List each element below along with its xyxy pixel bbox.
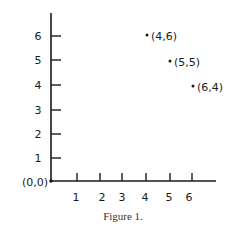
point-label: (4,6) (151, 30, 177, 43)
origin-label: (0,0) (22, 176, 48, 189)
x-tick-label: 1 (73, 191, 80, 204)
y-tick-label: 5 (35, 54, 42, 67)
y-tick-label: 4 (35, 79, 42, 92)
data-point (146, 34, 149, 37)
x-tick-label: 4 (142, 191, 149, 204)
x-tick-label: 5 (166, 191, 173, 204)
origin-dot (49, 179, 53, 183)
point-label: (6,4) (197, 81, 223, 94)
data-points: (4,6) (5,5) (6,4) (146, 30, 224, 94)
y-tick-label: 1 (35, 152, 42, 165)
data-point (192, 85, 195, 88)
x-ticks (77, 173, 192, 181)
x-tick-label: 3 (119, 191, 126, 204)
data-point (169, 60, 172, 63)
y-ticks (51, 36, 61, 158)
figure-caption: Figure 1. (103, 210, 143, 222)
y-tick-label: 2 (35, 128, 42, 141)
y-tick-label: 6 (35, 30, 42, 43)
x-tick-label: 2 (99, 191, 106, 204)
x-tick-label: 6 (186, 191, 193, 204)
y-tick-label: 3 (35, 104, 42, 117)
scatter-figure: 6 5 4 3 2 1 1 2 3 4 5 6 (0,0) (4,6) (5,5… (0, 0, 241, 230)
x-tick-labels: 1 2 3 4 5 6 (73, 191, 193, 204)
point-label: (5,5) (174, 56, 200, 69)
y-tick-labels: 6 5 4 3 2 1 (35, 30, 42, 165)
